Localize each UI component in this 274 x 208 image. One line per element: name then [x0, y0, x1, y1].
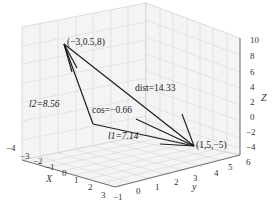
svg-text:6: 6 [250, 67, 255, 77]
3d-plot: 10 8 6 4 2 0 −2 −4 Z −4 −3 −2 −1 0 1 2 3… [0, 0, 274, 208]
svg-text:3: 3 [101, 190, 106, 200]
svg-text:2: 2 [174, 177, 179, 187]
svg-text:0: 0 [250, 112, 255, 122]
l1-label: l1=7.14 [108, 131, 139, 141]
svg-text:−2: −2 [33, 156, 43, 166]
svg-text:10: 10 [250, 35, 260, 45]
svg-text:−2: −2 [246, 127, 256, 137]
svg-text:2: 2 [250, 97, 255, 107]
z-axis-ticks: 10 8 6 4 2 0 −2 −4 [246, 35, 260, 152]
svg-text:−4: −4 [6, 143, 16, 153]
svg-text:1: 1 [74, 175, 79, 185]
svg-text:1: 1 [155, 182, 160, 192]
y-axis-label: y [191, 181, 197, 192]
svg-text:4: 4 [250, 82, 255, 92]
cos-label: cos=−0.66 [92, 105, 132, 115]
point-b-label: (1,5,−5) [196, 140, 227, 151]
svg-text:0: 0 [62, 168, 67, 178]
svg-text:−4: −4 [246, 142, 256, 152]
svg-text:5: 5 [228, 162, 233, 172]
svg-text:−3: −3 [20, 151, 30, 161]
x-axis-label: X [45, 173, 53, 184]
svg-text:2: 2 [88, 182, 93, 192]
svg-text:−1: −1 [45, 162, 55, 172]
svg-text:6: 6 [246, 157, 251, 167]
svg-text:4: 4 [214, 168, 219, 178]
z-axis-label: Z [261, 92, 267, 103]
svg-text:−1: −1 [113, 192, 123, 202]
svg-text:8: 8 [250, 51, 255, 61]
svg-text:0: 0 [136, 186, 141, 196]
dist-label: dist=14.33 [135, 83, 176, 93]
point-a-label: (−3,0.5,8) [67, 37, 105, 48]
l2-label: l2=8.56 [29, 99, 60, 109]
